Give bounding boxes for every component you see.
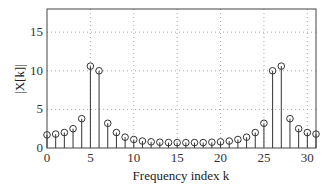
- y-tick-label: 10: [30, 63, 43, 78]
- x-axis-label: Frequency index k: [133, 168, 230, 183]
- stem-series: [44, 63, 320, 148]
- x-tick-label: 5: [87, 150, 94, 165]
- x-tick-label: 0: [44, 150, 51, 165]
- grid-lines: [47, 9, 316, 148]
- stem-chart: 051015202530051015 Frequency index k |X[…: [0, 0, 334, 188]
- x-tick-label: 30: [301, 150, 314, 165]
- y-tick-label: 0: [37, 140, 44, 155]
- x-tick-label: 25: [257, 150, 270, 165]
- x-tick-label: 10: [127, 150, 140, 165]
- y-tick-label: 5: [37, 101, 44, 116]
- y-axis-label: |X[k]|: [12, 64, 27, 94]
- x-tick-label: 20: [214, 150, 227, 165]
- plot-frame: [47, 9, 316, 148]
- y-tick-label: 15: [30, 24, 43, 39]
- x-tick-label: 15: [171, 150, 184, 165]
